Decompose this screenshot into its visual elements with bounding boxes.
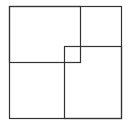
bottom-right-square [65, 47, 122, 119]
top-left-square [10, 7, 81, 63]
squares-diagram [0, 0, 129, 132]
